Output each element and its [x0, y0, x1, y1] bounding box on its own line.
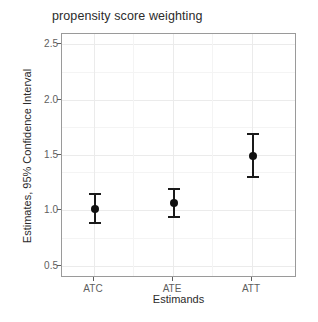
- gridline-minor-v-2: [212, 34, 213, 276]
- page-title: propensity score weighting: [52, 9, 203, 23]
- gridline-major-h-0.5: [62, 266, 295, 267]
- y-tick-label-1.5: 1.5: [18, 149, 58, 160]
- gridline-minor-h-2.25: [62, 238, 295, 239]
- x-tick-label-att: ATT: [226, 283, 276, 294]
- y-tick-label-1.0: 1.0: [18, 204, 58, 215]
- x-tick-mark-att: [251, 277, 252, 281]
- estimate-point-ate: [170, 199, 178, 207]
- y-tick-label-2.0: 2.0: [18, 94, 58, 105]
- gridline-minor-h-1.75: [62, 72, 295, 73]
- gridline-major-h-2.5: [62, 44, 295, 45]
- x-tick-label-ate: ATE: [147, 283, 197, 294]
- x-tick-mark-ate: [172, 277, 173, 281]
- chart-figure: propensity score weighting Estimates, 95…: [0, 0, 318, 322]
- gridline-major-h-1.5: [62, 155, 295, 156]
- errorbar-cap-lower-att: [247, 176, 259, 178]
- errorbar-cap-lower-atc: [89, 222, 101, 224]
- gridline-major-v-ate: [173, 34, 174, 276]
- x-tick-mark-atc: [93, 277, 94, 281]
- gridline-major-h-2.0: [62, 100, 295, 101]
- gridline-minor-h-0.75: [62, 172, 295, 173]
- x-tick-label-atc: ATC: [68, 283, 118, 294]
- gridline-minor-h-1.25: [62, 127, 295, 128]
- errorbar-cap-lower-ate: [168, 216, 180, 218]
- y-tick-label-2.5: 2.5: [18, 38, 58, 49]
- x-axis-title: Estimands: [61, 293, 296, 305]
- gridline-minor-v-1: [133, 34, 134, 276]
- estimate-point-atc: [91, 205, 99, 213]
- y-tick-label-0.5: 0.5: [18, 260, 58, 271]
- estimate-point-att: [249, 152, 257, 160]
- gridline-major-v-atc: [94, 34, 95, 276]
- plot-panel: [61, 33, 296, 277]
